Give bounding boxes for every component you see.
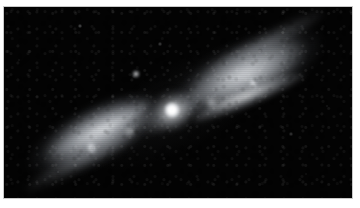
- nebula-lobe-northeast-core: [180, 13, 325, 117]
- image-alt-text: Grayscale astronomical photograph of a b…: [0, 0, 1, 1]
- nebula-rim-northeast-lower: [190, 65, 313, 135]
- nebula-lobe-northeast: [161, 7, 345, 134]
- image-canvas: Grayscale astronomical photograph of a b…: [0, 0, 360, 208]
- nebula-knot-southwest: [84, 138, 102, 157]
- scanline-texture: [4, 7, 352, 198]
- nebula-rim-southwest-lower: [21, 127, 142, 198]
- nebula-knot-northeast: [245, 76, 260, 93]
- nebula-rim-northeast-upper: [202, 7, 328, 79]
- nebula-knot-inner-northeast: [205, 96, 218, 109]
- sky-field: [4, 7, 352, 198]
- nebula-lobe-southwest-core: [27, 91, 159, 187]
- photographic-plate: [4, 7, 352, 198]
- bipolar-nebula: [4, 7, 352, 198]
- nebula-knot-inner-southwest: [124, 126, 135, 137]
- nebula-mottling-texture: [4, 7, 352, 198]
- nebula-lobe-southwest: [7, 76, 178, 198]
- nebula-rim-southwest-upper: [41, 89, 155, 163]
- nebula-waist: [133, 79, 216, 146]
